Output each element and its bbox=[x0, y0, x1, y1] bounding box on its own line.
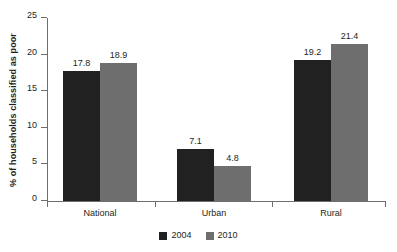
category-label-urban: Urban bbox=[174, 208, 254, 218]
legend-label: 2010 bbox=[218, 231, 238, 240]
plot-area: 051015202517.818.97.14.819.221.4 bbox=[47, 18, 385, 201]
y-axis-tick-label: 10 bbox=[27, 120, 37, 130]
bar-urban-2010 bbox=[214, 166, 251, 201]
category-label-national: National bbox=[60, 208, 140, 218]
bar-national-2010 bbox=[100, 63, 137, 201]
y-axis-tick-label: 15 bbox=[27, 83, 37, 93]
x-axis-tick bbox=[47, 201, 48, 207]
bar-value-label: 18.9 bbox=[94, 50, 143, 60]
legend-label: 2004 bbox=[171, 231, 191, 240]
legend: 20042010 bbox=[0, 231, 397, 240]
bar-chart: % of households classified as poor 05101… bbox=[0, 0, 397, 252]
legend-swatch-icon bbox=[206, 232, 214, 240]
y-axis-tick: 15 bbox=[41, 90, 47, 91]
bar-rural-2004 bbox=[294, 60, 331, 201]
y-axis-tick: 20 bbox=[41, 54, 47, 55]
bar-rural-2010 bbox=[331, 44, 368, 201]
bar-value-label: 4.8 bbox=[208, 153, 257, 163]
legend-swatch-icon bbox=[159, 232, 167, 240]
y-axis-title: % of households classified as poor bbox=[8, 5, 18, 215]
x-axis-line bbox=[47, 201, 385, 202]
x-axis-tick bbox=[385, 201, 386, 207]
category-label-rural: Rural bbox=[291, 208, 371, 218]
y-axis-tick-label: 20 bbox=[27, 47, 37, 57]
y-axis-tick: 25 bbox=[41, 17, 47, 18]
x-axis-tick bbox=[272, 201, 273, 207]
legend-item-2004[interactable]: 2004 bbox=[159, 231, 191, 240]
bar-value-label: 21.4 bbox=[325, 31, 374, 41]
y-axis-tick-label: 25 bbox=[27, 10, 37, 20]
legend-item-2010[interactable]: 2010 bbox=[206, 231, 238, 240]
bar-value-label: 19.2 bbox=[288, 47, 337, 57]
bar-national-2004 bbox=[63, 71, 100, 201]
bar-value-label: 7.1 bbox=[171, 136, 220, 146]
y-axis-tick: 5 bbox=[41, 163, 47, 164]
y-axis-tick-label: 0 bbox=[32, 193, 37, 203]
x-axis-tick bbox=[155, 201, 156, 207]
y-axis-tick-label: 5 bbox=[32, 156, 37, 166]
y-axis-tick: 10 bbox=[41, 127, 47, 128]
